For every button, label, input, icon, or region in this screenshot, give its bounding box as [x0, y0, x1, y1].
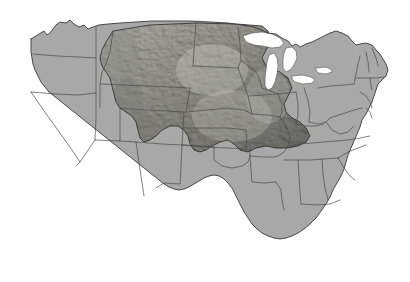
us-map-svg: [0, 0, 410, 282]
basin-shade-plains-north: [176, 44, 248, 96]
map-figure: [0, 0, 410, 282]
border-nv-az-ca: [76, 140, 95, 166]
